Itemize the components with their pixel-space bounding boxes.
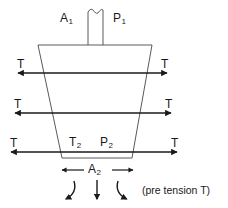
label-area-bottom: A2 xyxy=(88,163,100,175)
label-tension-row3-right: T xyxy=(171,137,178,149)
label-tension-row3-left: T xyxy=(10,137,17,149)
label-tension-row2-right: T xyxy=(165,98,172,110)
reaction-arrow-right xyxy=(117,181,126,199)
label-pressure-top: P1 xyxy=(113,12,125,24)
diagram-canvas xyxy=(0,0,228,208)
reaction-arrows xyxy=(66,180,127,199)
pile-stem xyxy=(88,9,103,45)
pre-tension-force-diagram: A1 P1 T T T T T T T2 P2 A2 (pre tension … xyxy=(0,0,228,208)
label-tension-row2-left: T xyxy=(14,98,21,110)
label-tension-row1-right: T xyxy=(161,58,168,70)
reaction-arrow-left xyxy=(66,181,75,199)
label-pressure-bottom: P2 xyxy=(100,136,112,148)
label-pre-tension-note: (pre tension T) xyxy=(142,185,210,196)
pile-body-outline xyxy=(38,45,152,158)
label-tension-row1-left: T xyxy=(17,58,24,70)
label-tension-bottom: T2 xyxy=(69,136,81,148)
label-area-top: A1 xyxy=(60,12,72,24)
